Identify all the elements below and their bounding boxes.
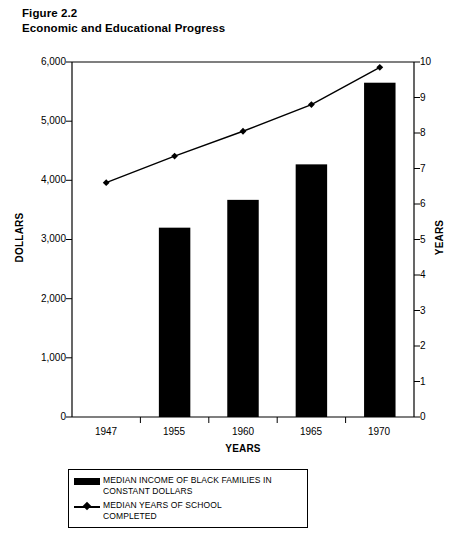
ytick-left-2000: 2,000	[20, 294, 66, 304]
xtick-1947: 1947	[76, 427, 136, 437]
x-axis-title: YEARS	[72, 443, 414, 454]
xtick-1960: 1960	[213, 427, 273, 437]
y-axis-title-left: DOLLARS	[14, 203, 25, 273]
ytick-right-7: 7	[420, 164, 456, 174]
ytick-right-10: 10	[420, 57, 456, 67]
xtick-1970: 1970	[349, 427, 409, 437]
bar-series	[159, 83, 396, 417]
legend-label-median-years: MEDIAN YEARS OF SCHOOL COMPLETED	[103, 500, 222, 521]
bar-1955	[227, 200, 258, 417]
legend-label-median-income-line2: CONSTANT DOLLARS	[103, 486, 272, 497]
legend-line-marker-swatch-icon	[74, 501, 100, 512]
legend-label-median-income: MEDIAN INCOME OF BLACK FAMILIES IN CONST…	[103, 475, 272, 496]
legend-item-median-years: MEDIAN YEARS OF SCHOOL COMPLETED	[74, 500, 303, 521]
chart-svg	[0, 0, 456, 456]
line-marker-1970	[376, 64, 383, 71]
ytick-right-8: 8	[420, 128, 456, 138]
legend-label-median-years-line1: MEDIAN YEARS OF SCHOOL	[103, 500, 222, 511]
bar-1947	[159, 228, 190, 417]
bar-1960	[296, 164, 327, 417]
bar-1965	[364, 83, 395, 417]
line-marker-1947	[103, 179, 110, 186]
ytick-left-0: 0	[20, 412, 66, 422]
line-series-median-years	[106, 67, 380, 182]
ytick-left-5000: 5,000	[20, 116, 66, 126]
xtick-1965: 1965	[281, 427, 341, 437]
ytick-right-2: 2	[420, 341, 456, 351]
ytick-left-3000: 3,000	[20, 234, 66, 244]
legend-bar-swatch-icon	[74, 476, 100, 487]
line-marker-1955	[171, 153, 178, 160]
xtick-1955: 1955	[144, 427, 204, 437]
ytick-left-4000: 4,000	[20, 175, 66, 185]
chart-plot-area: 6,000 5,000 4,000 3,000 2,000 1,000 0 10…	[0, 0, 456, 456]
legend-item-median-income: MEDIAN INCOME OF BLACK FAMILIES IN CONST…	[74, 475, 303, 496]
line-marker-1965	[308, 101, 315, 108]
figure-container: Figure 2.2 Economic and Educational Prog…	[0, 0, 456, 541]
x-axis-ticks	[140, 417, 345, 423]
y-axis-title-right: YEARS	[434, 203, 445, 273]
legend-label-median-income-line1: MEDIAN INCOME OF BLACK FAMILIES IN	[103, 475, 272, 486]
ytick-right-9: 9	[420, 93, 456, 103]
ytick-right-1: 1	[420, 377, 456, 387]
ytick-left-6000: 6,000	[20, 57, 66, 67]
line-marker-1960	[240, 128, 247, 135]
ytick-right-0: 0	[420, 412, 456, 422]
left-axis-ticks	[66, 62, 72, 417]
ytick-right-3: 3	[420, 306, 456, 316]
legend-label-median-years-line2: COMPLETED	[103, 511, 222, 522]
chart-legend: MEDIAN INCOME OF BLACK FAMILIES IN CONST…	[68, 469, 308, 528]
ytick-left-1000: 1,000	[20, 353, 66, 363]
